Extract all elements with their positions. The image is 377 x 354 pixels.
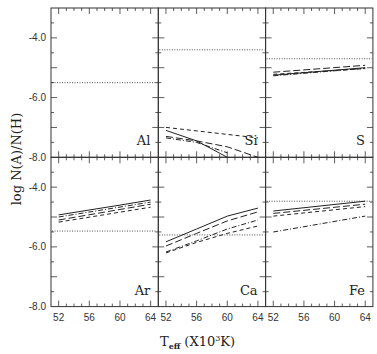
y-tick-labels: -4.0-6.0-8.0-4.0-6.0-8.0	[29, 32, 47, 312]
element-label-al: Al	[136, 133, 151, 148]
element-label-ca: Ca	[240, 283, 258, 298]
x-axis-title-unit: (X10	[184, 334, 215, 349]
y-tick-label: -4.0	[29, 32, 47, 43]
series-long-dash	[273, 204, 365, 213]
series-long-dash	[59, 204, 151, 220]
series-solid	[59, 200, 151, 215]
x-axis-title-main: T	[160, 334, 169, 349]
y-tick-label: -6.0	[29, 92, 47, 103]
x-tick-label: 56	[84, 312, 96, 323]
element-label-s: S	[356, 133, 365, 148]
x-tick-label: 52	[160, 312, 172, 323]
y-tick-label: -8.0	[29, 301, 47, 312]
x-tick-label: 52	[268, 312, 280, 323]
x-tick-label: 60	[222, 312, 234, 323]
y-tick-label: -8.0	[29, 152, 47, 163]
x-tick-label: 64	[145, 312, 157, 323]
x-tick-label: 56	[191, 312, 203, 323]
x-tick-label: 64	[360, 312, 372, 323]
data-series	[52, 50, 372, 253]
element-labels: AlSiSArCaFe	[134, 133, 366, 297]
y-tick-label: -4.0	[29, 182, 47, 193]
x-tick-label: 60	[329, 312, 341, 323]
x-tick-labels: 525660645256606452566064	[53, 312, 371, 323]
x-axis-title-sub: eff	[169, 341, 181, 351]
x-axis-title-end: K)	[220, 334, 235, 349]
element-label-ar: Ar	[134, 283, 151, 298]
x-tick-label: 64	[252, 312, 264, 323]
x-tick-label: 52	[53, 312, 65, 323]
series-long-dash	[166, 212, 258, 246]
series-dash-dot	[273, 216, 365, 232]
y-axis-title: log N(A)/N(H)	[9, 113, 24, 206]
series-solid	[166, 208, 258, 242]
element-label-fe: Fe	[349, 283, 365, 298]
series-short-dash	[273, 207, 365, 217]
series-short-dash	[166, 226, 258, 253]
x-tick-label: 56	[298, 312, 310, 323]
element-label-si: Si	[245, 133, 258, 148]
y-tick-label: -6.0	[29, 241, 47, 252]
x-tick-label: 60	[114, 312, 126, 323]
x-axis-title: Teff(X103K)	[160, 334, 235, 351]
series-solid	[273, 201, 365, 211]
chart-figure: -4.0-6.0-8.0-4.0-6.0-8.0 525660645256606…	[0, 0, 377, 354]
